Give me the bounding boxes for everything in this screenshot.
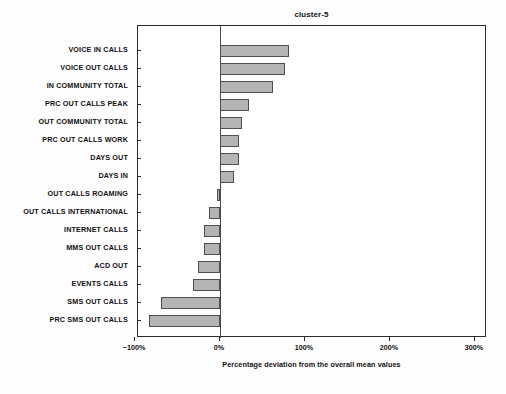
- bar-row: [138, 60, 485, 78]
- bar-row: [138, 276, 485, 294]
- y-tick-label-15: PRC SMS OUT CALLS: [50, 311, 128, 329]
- bar-row: [138, 42, 485, 60]
- bar-days-out: [220, 153, 239, 165]
- x-tick-label-2: 100%: [295, 343, 313, 352]
- y-tick-mark: [137, 140, 141, 141]
- y-tick-label-12: ACD OUT: [94, 257, 128, 275]
- y-tick-label-14: SMS OUT CALLS: [67, 293, 128, 311]
- y-tick-mark: [137, 284, 141, 285]
- bar-row: [138, 312, 485, 330]
- x-tick-mark: [389, 337, 390, 341]
- y-tick-mark: [137, 194, 141, 195]
- chart-figure: cluster-5 VOICE IN CALLSVOICE OUT CALLSI…: [0, 0, 506, 394]
- y-tick-mark: [137, 86, 141, 87]
- y-tick-mark: [137, 320, 141, 321]
- bar-row: [138, 114, 485, 132]
- y-tick-label-1: VOICE OUT CALLS: [60, 59, 128, 77]
- y-tick-mark: [137, 50, 141, 51]
- y-tick-mark: [137, 158, 141, 159]
- y-tick-label-0: VOICE IN CALLS: [68, 41, 128, 59]
- x-tick-label-0: −100%: [123, 343, 146, 352]
- y-tick-mark: [137, 104, 141, 105]
- bar-in-community-total: [220, 81, 273, 93]
- bar-events-calls: [193, 279, 220, 291]
- bar-row: [138, 78, 485, 96]
- bar-row: [138, 294, 485, 312]
- bar-voice-in-calls: [220, 45, 289, 57]
- bar-voice-out-calls: [220, 63, 285, 75]
- bar-row: [138, 96, 485, 114]
- y-tick-mark: [137, 266, 141, 267]
- y-tick-label-3: PRC OUT CALLS PEAK: [45, 95, 128, 113]
- x-tick-mark: [219, 337, 220, 341]
- x-tick-label-3: 200%: [380, 343, 398, 352]
- y-tick-label-9: OUT CALLS INTERNATIONAL: [23, 203, 128, 221]
- bar-out-calls-international: [209, 207, 220, 219]
- y-tick-mark: [137, 302, 141, 303]
- x-axis-title: Percentage deviation from the overall me…: [137, 360, 486, 369]
- bar-row: [138, 204, 485, 222]
- bar-internet-calls: [204, 225, 220, 237]
- y-axis-label-group: VOICE IN CALLSVOICE OUT CALLSIN COMMUNIT…: [0, 25, 133, 337]
- bar-prc-out-calls-peak: [220, 99, 249, 111]
- y-tick-mark: [137, 248, 141, 249]
- bar-row: [138, 132, 485, 150]
- bar-prc-out-calls-work: [220, 135, 239, 147]
- bar-acd-out: [198, 261, 220, 273]
- y-tick-mark: [137, 68, 141, 69]
- x-tick-label-1: 0%: [214, 343, 224, 352]
- bar-row: [138, 222, 485, 240]
- bar-sms-out-calls: [161, 297, 220, 309]
- y-tick-label-2: IN COMMUNITY TOTAL: [47, 77, 128, 95]
- y-tick-label-6: DAYS OUT: [90, 149, 128, 167]
- x-tick-mark: [304, 337, 305, 341]
- x-tick-mark: [474, 337, 475, 341]
- chart-title: cluster-5: [137, 10, 486, 19]
- y-tick-label-4: OUT COMMUNITY TOTAL: [39, 113, 129, 131]
- y-tick-mark: [137, 122, 141, 123]
- y-tick-mark: [137, 212, 141, 213]
- y-tick-label-8: OUT CALLS ROAMING: [48, 185, 128, 203]
- x-tick-mark: [134, 337, 135, 341]
- bar-prc-sms-out-calls: [149, 315, 220, 327]
- y-tick-mark: [137, 176, 141, 177]
- y-tick-label-10: INTERNET CALLS: [64, 221, 128, 239]
- bar-row: [138, 186, 485, 204]
- bar-out-calls-roaming: [217, 189, 220, 201]
- bar-row: [138, 240, 485, 258]
- bar-out-community-total: [220, 117, 242, 129]
- y-tick-label-5: PRC OUT CALLS WORK: [42, 131, 128, 149]
- x-tick-label-4: 300%: [465, 343, 483, 352]
- y-tick-label-7: DAYS IN: [98, 167, 128, 185]
- bar-mms-out-calls: [204, 243, 220, 255]
- y-tick-mark: [137, 230, 141, 231]
- y-tick-label-11: MMS OUT CALLS: [66, 239, 128, 257]
- bar-row: [138, 168, 485, 186]
- bar-days-in: [220, 171, 234, 183]
- bar-row: [138, 258, 485, 276]
- bar-row: [138, 150, 485, 168]
- y-tick-label-13: EVENTS CALLS: [71, 275, 128, 293]
- plot-area: [137, 25, 486, 337]
